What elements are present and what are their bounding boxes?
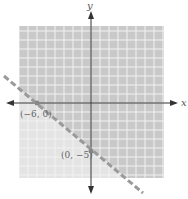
point-x-intercept: [35, 101, 40, 106]
y-axis-down-arrow-icon: [88, 186, 94, 194]
y-axis-up-arrow-icon: [88, 11, 94, 19]
point1-label: (−6, 0): [20, 109, 52, 119]
y-axis-label: y: [86, 0, 93, 11]
x-axis-label: x: [181, 97, 187, 108]
inequality-graph: y x (−6, 0) (0, −5): [0, 0, 188, 199]
x-axis-left-arrow-icon: [6, 100, 14, 106]
x-axis-right-arrow-icon: [170, 100, 178, 106]
point2-label: (0, −5): [61, 150, 93, 160]
